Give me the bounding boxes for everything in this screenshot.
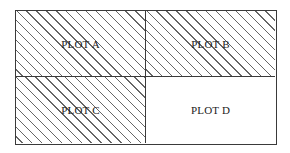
plot-b: PLOT B <box>146 11 275 77</box>
plot-a-label: PLOT A <box>59 38 102 50</box>
plot-b-label: PLOT B <box>189 38 232 50</box>
plot-d: PLOT D <box>146 77 275 143</box>
plot-c: PLOT C <box>16 77 146 143</box>
plot-d-label: PLOT D <box>189 104 232 116</box>
plot-a: PLOT A <box>16 11 146 77</box>
plot-grid: PLOT A PLOT B PLOT C PLOT D <box>15 10 277 145</box>
plot-c-label: PLOT C <box>59 104 102 116</box>
